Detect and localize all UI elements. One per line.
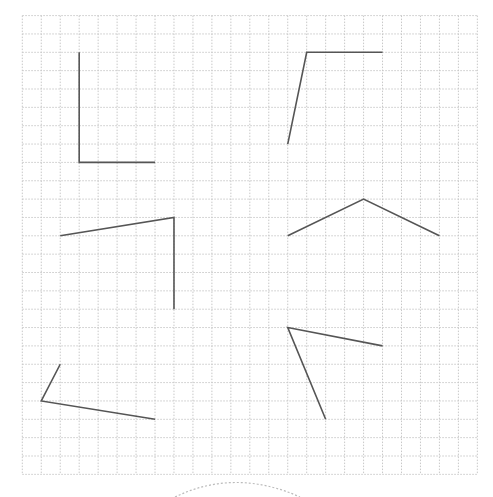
angle-top-right — [288, 52, 383, 144]
dashed-arc — [175, 483, 300, 497]
angle-bottom-right — [288, 328, 383, 420]
grid-canvas — [0, 0, 493, 497]
grid-lines — [22, 16, 477, 475]
